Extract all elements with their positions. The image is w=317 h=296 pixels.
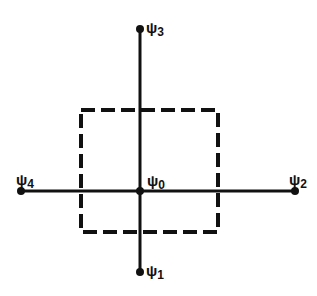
psi-symbol: ψ (147, 172, 158, 189)
psi-symbol: ψ (289, 171, 300, 188)
label-psi1: ψ1 (146, 263, 164, 281)
label-psi4: ψ4 (16, 172, 34, 190)
node-psi3-dot (136, 25, 144, 33)
subscript: 1 (157, 268, 164, 282)
dashed-square (81, 110, 218, 232)
diagram-canvas (0, 0, 317, 296)
node-psi1-dot (136, 268, 144, 276)
psi-symbol: ψ (146, 262, 157, 279)
subscript: 4 (27, 177, 34, 191)
label-psi0: ψ0 (147, 173, 165, 191)
psi-symbol: ψ (146, 19, 157, 36)
label-psi2: ψ2 (289, 172, 307, 190)
node-psi0-dot (136, 187, 144, 195)
subscript: 0 (158, 178, 165, 192)
subscript: 3 (157, 25, 164, 39)
psi-symbol: ψ (16, 171, 27, 188)
label-psi3: ψ3 (146, 20, 164, 38)
subscript: 2 (300, 177, 307, 191)
